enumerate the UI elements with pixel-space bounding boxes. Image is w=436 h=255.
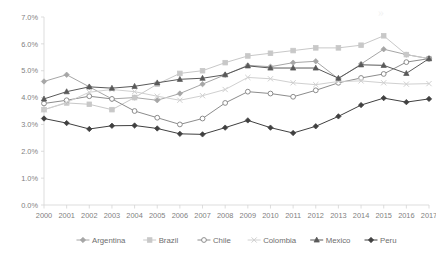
data-point-marker [110, 97, 115, 102]
legend-label: Mexico [326, 236, 351, 245]
data-point-marker [381, 47, 386, 52]
x-axis-tick-label: 2012 [308, 211, 324, 220]
x-axis-tick-label: 2005 [149, 211, 165, 220]
data-point-marker [291, 94, 296, 99]
y-axis-tick-label: 5.0% [21, 66, 38, 75]
data-point-marker [42, 101, 47, 106]
legend-label: Colombia [263, 236, 297, 245]
series-argentina [41, 47, 431, 103]
data-point-marker [381, 95, 386, 100]
data-point-marker [41, 79, 46, 84]
legend-item-colombia[interactable]: Colombia [248, 236, 297, 245]
legend-item-peru[interactable]: Peru [365, 236, 397, 245]
series-layer [41, 34, 431, 138]
data-point-marker [147, 238, 152, 243]
series-peru [41, 95, 431, 137]
watermark-text: » [378, 5, 384, 19]
data-point-marker [404, 52, 409, 57]
legend-label: Chile [213, 236, 231, 245]
x-axis-tick-label: 2002 [81, 211, 97, 220]
data-point-marker [381, 72, 386, 77]
data-point-marker [200, 81, 205, 86]
series-line [44, 98, 429, 134]
y-axis-tick-label: 2.0% [21, 147, 38, 156]
x-axis-tick-label: 2016 [398, 211, 414, 220]
y-axis-tick-label: 4.0% [21, 93, 38, 102]
x-axis-tick-label: 2003 [104, 211, 120, 220]
data-point-marker [313, 124, 318, 129]
legend-label: Peru [380, 236, 396, 245]
data-point-marker [223, 101, 228, 106]
data-point-marker [313, 88, 318, 93]
x-axis-tick-label: 2004 [126, 211, 142, 220]
data-point-marker [222, 125, 227, 130]
y-axis-tick-label: 3.0% [21, 120, 38, 129]
series-chile [42, 56, 432, 127]
data-point-marker [313, 46, 318, 51]
legend-item-argentina[interactable]: Argentina [76, 236, 126, 245]
x-axis-tick-label: 2006 [172, 211, 188, 220]
data-point-marker [178, 71, 183, 76]
data-point-marker [177, 122, 182, 127]
data-point-marker [336, 46, 341, 51]
series-mexico [41, 56, 431, 101]
data-point-marker [177, 91, 182, 96]
x-axis-tick-label: 2010 [262, 211, 278, 220]
legend-item-mexico[interactable]: Mexico [310, 236, 351, 245]
data-point-marker [245, 89, 250, 94]
x-axis-tick-label: 2008 [217, 211, 233, 220]
data-point-marker [404, 60, 409, 65]
legend-label: Argentina [92, 236, 126, 245]
data-point-marker [80, 237, 85, 242]
x-axis-tick-label: 2000 [36, 211, 52, 220]
data-point-marker [245, 118, 250, 123]
x-axis-tick-label: 2007 [194, 211, 210, 220]
data-point-marker [132, 109, 137, 114]
series-line [44, 49, 429, 100]
series-brazil [42, 34, 432, 112]
line-chart-container: » 0.0%1.0%2.0%3.0%4.0%5.0%6.0%7.0% 20002… [0, 0, 436, 255]
y-axis-tick-label: 0.0% [21, 201, 38, 210]
data-point-marker [64, 72, 69, 77]
data-point-marker [358, 102, 363, 107]
y-axis-tick-label: 1.0% [21, 174, 38, 183]
data-point-marker [200, 132, 205, 137]
data-point-marker [359, 43, 364, 48]
line-chart-svg: » 0.0%1.0%2.0%3.0%4.0%5.0%6.0%7.0% 20002… [0, 0, 436, 255]
series-line [44, 59, 429, 99]
data-point-marker [268, 51, 273, 56]
data-point-marker [291, 48, 296, 53]
x-axis-tick-label: 2001 [58, 211, 74, 220]
data-point-marker [336, 114, 341, 119]
legend-item-brazil[interactable]: Brazil [143, 236, 178, 245]
y-axis-tick-label: 6.0% [21, 40, 38, 49]
data-point-marker [132, 95, 137, 100]
data-point-marker [268, 91, 273, 96]
y-axis: 0.0%1.0%2.0%3.0%4.0%5.0%6.0%7.0% [21, 13, 44, 210]
data-point-marker [155, 126, 160, 131]
data-point-marker [290, 130, 295, 135]
data-point-marker [41, 116, 46, 121]
data-point-marker [110, 107, 115, 112]
legend-label: Brazil [159, 236, 179, 245]
data-point-marker [200, 68, 205, 73]
data-point-marker [177, 131, 182, 136]
x-axis: 2000200120022003200420052006200720082009… [36, 205, 436, 220]
x-axis-tick-label: 2013 [330, 211, 346, 220]
data-point-marker [426, 96, 431, 101]
x-axis-tick-label: 2017 [421, 211, 436, 220]
data-point-marker [132, 123, 137, 128]
data-point-marker [64, 120, 69, 125]
x-axis-tick-label: 2011 [285, 211, 301, 220]
data-point-marker [268, 125, 273, 130]
x-axis-tick-label: 2015 [375, 211, 391, 220]
chart-legend: ArgentinaBrazilChileColombiaMexicoPeru [76, 236, 396, 245]
x-axis-tick-label: 2014 [353, 211, 369, 220]
legend-item-chile[interactable]: Chile [197, 236, 230, 245]
series-line [44, 36, 429, 110]
data-point-marker [200, 116, 205, 121]
series-line [44, 59, 429, 125]
data-point-marker [381, 34, 386, 39]
data-point-marker [87, 102, 92, 107]
data-point-marker [368, 237, 373, 242]
